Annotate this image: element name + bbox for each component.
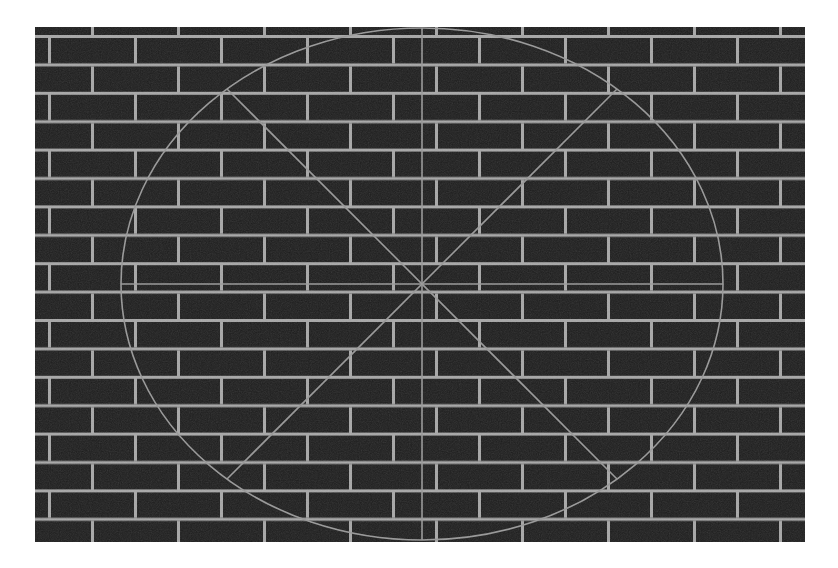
- noise-overlay: [35, 27, 805, 542]
- brick-wall-graphic: [35, 27, 805, 542]
- brick-wall: [35, 27, 805, 542]
- figure-canvas: [0, 0, 838, 568]
